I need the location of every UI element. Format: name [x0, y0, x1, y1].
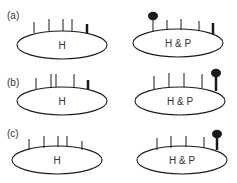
ellipse-h-a: H: [17, 19, 107, 59]
ellipse-label: H & P: [167, 96, 193, 107]
row-label-b: (b): [7, 77, 19, 88]
row-b: (b) H H & P: [7, 69, 225, 115]
ellipse-hp-c: H & P: [137, 130, 227, 174]
ellipse-h-b: H: [17, 74, 107, 115]
ellipse-label: H & P: [169, 155, 195, 166]
ellipse-label: H: [53, 155, 60, 166]
ellipse-label: H & P: [165, 38, 191, 49]
ellipse-hp-b: H & P: [135, 69, 225, 115]
ball-marker-icon: [148, 12, 158, 20]
ellipse-label: H: [58, 96, 65, 107]
row-c: (c) H H & P: [7, 128, 227, 174]
diagram-canvas: (a) H H & P (b) H H & P (c) H H & P: [0, 0, 237, 183]
row-a: (a) H H & P: [7, 10, 223, 59]
row-label-a: (a): [7, 10, 19, 21]
row-label-c: (c): [7, 128, 19, 139]
ball-marker-icon: [212, 130, 222, 138]
ellipse-hp-a: H & P: [133, 12, 223, 57]
ellipse-label: H: [58, 40, 65, 51]
ellipse-h-c: H: [12, 136, 102, 174]
ball-marker-icon: [211, 69, 221, 77]
